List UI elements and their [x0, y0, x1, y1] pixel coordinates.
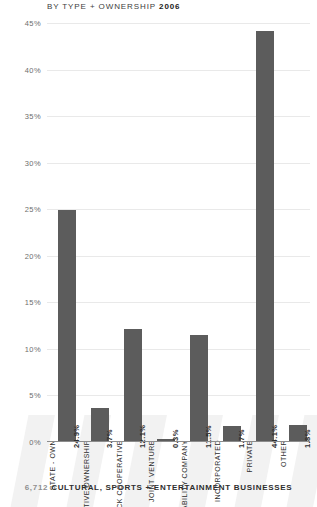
- bar-group[interactable]: INCORPORATED1.7%: [223, 23, 241, 442]
- bar-value-label: 3.7%: [105, 429, 114, 448]
- bar-category-label: COLLECTIVE OWNERSHIP: [82, 440, 89, 507]
- bar-value-label: 12.1%: [138, 425, 147, 448]
- bar-group[interactable]: COLLECTIVE OWNERSHIP3.7%: [91, 23, 109, 442]
- bar-value-label: 11.5%: [203, 425, 212, 448]
- y-axis-tick-label: 0%: [29, 438, 41, 447]
- footer-caption: CULTURAL, SPORTS + ENTERTAINMENT BUSINES…: [51, 483, 292, 492]
- plot-area: 0%5%10%15%20%25%30%35%40%45% STATE - OWN…: [47, 23, 310, 442]
- bar[interactable]: [256, 31, 274, 442]
- bar-category-label: OTHER: [280, 440, 287, 467]
- page-title: BY TYPE + OWNERSHIP 2006: [47, 2, 180, 11]
- bar[interactable]: [58, 210, 76, 442]
- bar-category-label: LIMITED LIABILITY COMPANY: [181, 440, 188, 507]
- chart-title-text: BY TYPE + OWNERSHIP: [47, 2, 156, 11]
- bar-value-label: 1.7%: [236, 429, 245, 448]
- bar-value-label: 0.3%: [171, 429, 180, 448]
- y-axis-tick-label: 5%: [29, 391, 41, 400]
- bar-value-label: 24.9%: [72, 425, 81, 448]
- chart-title-year: 2006: [159, 2, 180, 11]
- y-axis-tick-label: 15%: [25, 298, 41, 307]
- bar-group[interactable]: STATE - OWN24.9%: [58, 23, 76, 442]
- bar-group[interactable]: JOINT STOCK COOPERATIVE12.1%: [124, 23, 142, 442]
- bar-category-label: JOINT VENTURE: [148, 440, 155, 502]
- chart-page: BY TYPE + OWNERSHIP 2006 0%5%10%15%20%25…: [0, 0, 317, 507]
- bar-group[interactable]: OTHER1.8%: [289, 23, 307, 442]
- x-axis-baseline: [47, 441, 310, 442]
- bar-group[interactable]: LIMITED LIABILITY COMPANY11.5%: [190, 23, 208, 442]
- y-axis-tick-label: 40%: [25, 65, 41, 74]
- bar-value-label: 1.8%: [302, 429, 311, 448]
- y-axis-tick-label: 45%: [25, 19, 41, 28]
- footer: 6,712 CULTURAL, SPORTS + ENTERTAINMENT B…: [0, 483, 317, 492]
- y-axis-tick-label: 10%: [25, 344, 41, 353]
- bar-series: STATE - OWN24.9%COLLECTIVE OWNERSHIP3.7%…: [47, 23, 310, 442]
- bar-category-label: JOINT STOCK COOPERATIVE: [115, 440, 122, 507]
- bar-group[interactable]: JOINT VENTURE0.3%: [157, 23, 175, 442]
- bar-group[interactable]: PRIVATE44.1%: [256, 23, 274, 442]
- bar-value-label: 44.1%: [269, 425, 278, 448]
- y-axis-tick-label: 25%: [25, 205, 41, 214]
- bar-category-label: INCORPORATED: [214, 440, 221, 502]
- business-count: 6,712: [25, 483, 49, 492]
- bar-category-label: PRIVATE: [247, 440, 254, 472]
- y-axis-tick-label: 20%: [25, 251, 41, 260]
- y-axis-tick-label: 35%: [25, 112, 41, 121]
- y-axis-tick-label: 30%: [25, 158, 41, 167]
